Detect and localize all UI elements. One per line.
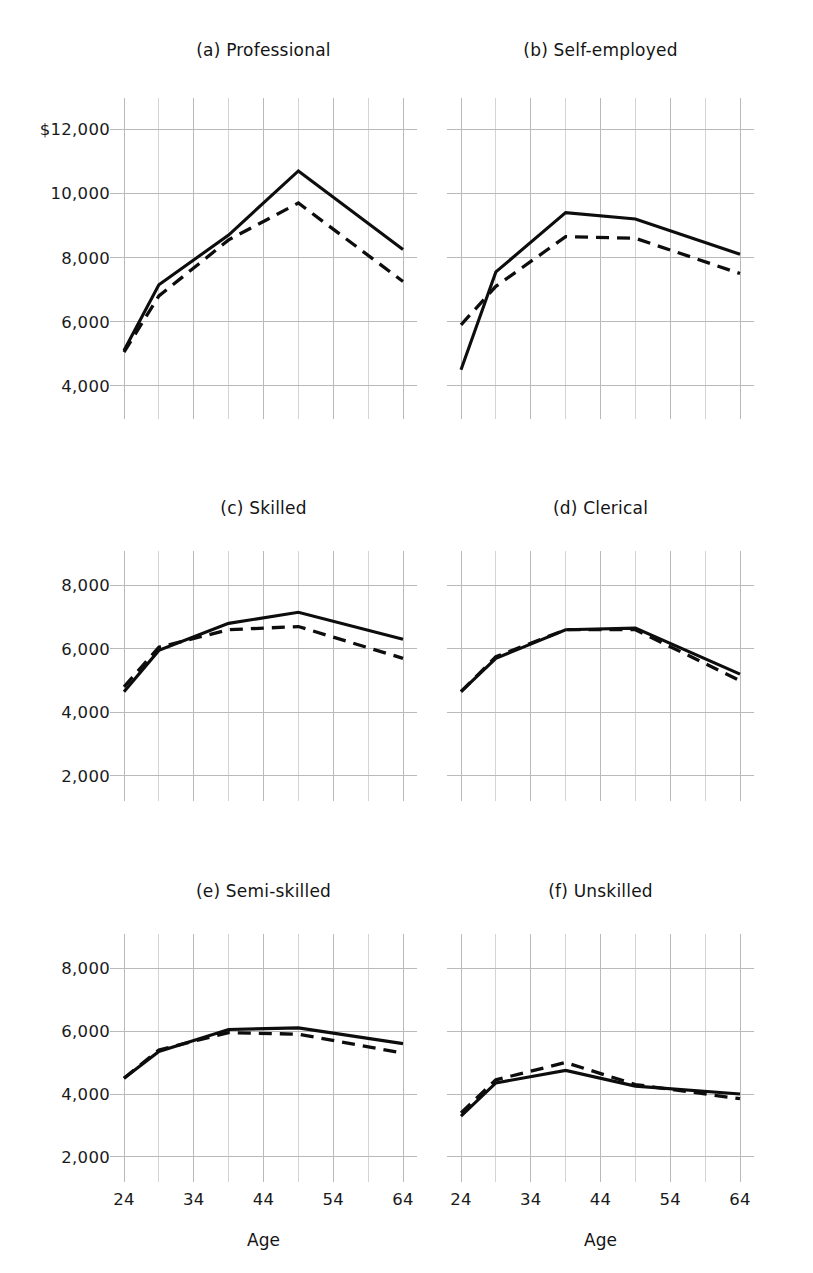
y-tick-label: 6,000 (61, 639, 110, 658)
x-tick-label: 44 (590, 1190, 612, 1209)
plot-area-d (461, 563, 740, 787)
y-tick-label: 4,000 (61, 376, 110, 395)
y-tick-label: 8,000 (61, 959, 110, 978)
x-tick-label: 24 (450, 1190, 472, 1209)
y-axis-labels-a: $12,00010,0008,0006,0004,000 (0, 110, 110, 405)
panel-title-a: (a) Professional (124, 40, 403, 60)
x-tick-label: 34 (520, 1190, 542, 1209)
x-tick-label: 34 (183, 1190, 205, 1209)
plot-area-b (461, 110, 740, 405)
y-tick-label: 10,000 (50, 184, 110, 203)
x-tick-label: 64 (729, 1190, 751, 1209)
y-tick-label: 6,000 (61, 1022, 110, 1041)
x-tick-label: 44 (253, 1190, 275, 1209)
y-tick-label: 2,000 (61, 766, 110, 785)
panel-title-b: (b) Self-employed (461, 40, 740, 60)
x-axis-title: Age (461, 1230, 740, 1250)
y-tick-label: 2,000 (61, 1147, 110, 1166)
x-axis-labels-f: 2434445464 (461, 1190, 740, 1216)
plot-area-c (124, 563, 403, 787)
x-tick-label: 54 (659, 1190, 681, 1209)
y-tick-label: 8,000 (61, 248, 110, 267)
x-axis-title: Age (124, 1230, 403, 1250)
y-axis-labels-c: 8,0006,0004,0002,000 (0, 563, 110, 787)
panel-title-d: (d) Clerical (461, 498, 740, 518)
x-tick-label: 54 (322, 1190, 344, 1209)
plot-area-a (124, 110, 403, 405)
x-tick-label: 24 (113, 1190, 135, 1209)
y-tick-label: 6,000 (61, 312, 110, 331)
y-tick-label: 4,000 (61, 1085, 110, 1104)
panel-title-f: (f) Unskilled (461, 881, 740, 901)
y-tick-label: $12,000 (40, 120, 110, 139)
y-axis-labels-e: 8,0006,0004,0002,000 (0, 946, 110, 1168)
y-tick-label: 8,000 (61, 576, 110, 595)
x-axis-labels-e: 2434445464 (124, 1190, 403, 1216)
plot-area-f (461, 946, 740, 1168)
panel-title-c: (c) Skilled (124, 498, 403, 518)
y-tick-label: 4,000 (61, 703, 110, 722)
plot-area-e (124, 946, 403, 1168)
panel-title-e: (e) Semi-skilled (124, 881, 403, 901)
